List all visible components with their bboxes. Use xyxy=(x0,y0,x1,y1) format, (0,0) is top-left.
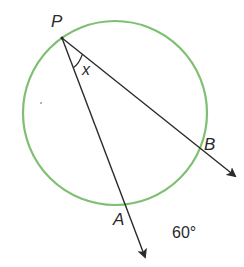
center-dot xyxy=(40,102,42,104)
label-angle-x: x xyxy=(81,61,91,78)
diagram-svg: P x B A 60° xyxy=(0,0,244,267)
label-arc-60: 60° xyxy=(172,224,196,241)
diagram-canvas: P x B A 60° xyxy=(0,0,244,267)
label-b: B xyxy=(204,135,215,154)
label-a: A xyxy=(112,210,124,229)
point-p-dot xyxy=(60,36,63,39)
label-p: P xyxy=(51,12,63,31)
